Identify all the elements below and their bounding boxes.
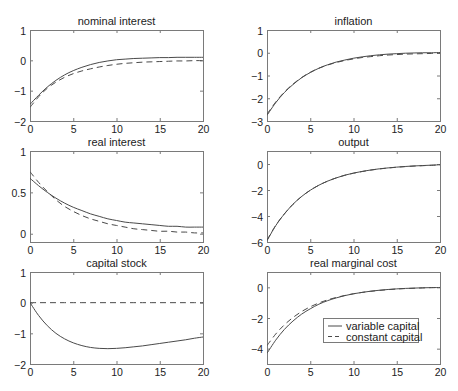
variable-capital-line (30, 303, 203, 349)
constant-capital-line (267, 165, 440, 240)
y-tick-label: −2 (251, 313, 263, 325)
x-tick-label: 0 (265, 123, 271, 135)
subplot-output: output05101520−6−4−20 (251, 136, 446, 256)
y-tick-label: −1 (251, 70, 263, 82)
x-tick-label: 20 (435, 123, 447, 135)
subplot-real-marginal-cost: real marginal cost05101520−4−20variable … (251, 257, 446, 378)
x-tick-label: 20 (198, 123, 210, 135)
y-tick-label: 0 (257, 159, 263, 171)
axes-frame (268, 31, 441, 122)
axes-frame (268, 152, 441, 243)
y-tick-label: 1 (20, 267, 26, 279)
chart-grid: nominal interest05101520−2−101inflation0… (0, 0, 458, 391)
x-tick-label: 0 (28, 366, 34, 378)
y-tick-label: −2 (14, 116, 26, 128)
x-tick-label: 10 (111, 366, 123, 378)
x-tick-label: 0 (265, 366, 271, 378)
x-tick-label: 10 (348, 366, 360, 378)
x-tick-label: 15 (154, 244, 166, 256)
y-tick-label: 1 (20, 25, 26, 37)
variable-capital-line (267, 53, 440, 116)
panel-title: nominal interest (78, 15, 156, 27)
subplot-capital-stock: capital stock05101520−2−101 (14, 257, 209, 378)
legend: variable capitalconstant capital (324, 319, 423, 343)
y-tick-label: 0 (257, 282, 263, 294)
figure: nominal interest05101520−2−101inflation0… (0, 0, 458, 391)
subplot-inflation: inflation05101520−3−2−101 (251, 15, 446, 135)
legend-label: constant capital (346, 331, 422, 343)
x-tick-label: 0 (28, 123, 34, 135)
x-tick-label: 20 (198, 366, 210, 378)
panel-title: real interest (88, 136, 145, 148)
variable-capital-line (267, 165, 440, 241)
x-tick-label: 5 (308, 366, 314, 378)
x-tick-label: 5 (308, 123, 314, 135)
x-tick-label: 20 (198, 244, 210, 256)
subplot-nominal-interest: nominal interest05101520−2−101 (14, 15, 209, 135)
y-tick-label: −1 (14, 328, 26, 340)
axes-frame (31, 31, 204, 122)
x-tick-label: 5 (71, 244, 77, 256)
x-tick-label: 0 (28, 244, 34, 256)
x-tick-label: 5 (71, 123, 77, 135)
axes-frame (31, 273, 204, 365)
y-tick-label: 1 (20, 146, 26, 158)
y-tick-label: 0 (20, 55, 26, 67)
y-tick-label: −2 (14, 359, 26, 371)
x-tick-label: 20 (435, 244, 447, 256)
y-tick-label: −2 (251, 93, 263, 105)
x-tick-label: 15 (391, 123, 403, 135)
constant-capital-line (267, 53, 440, 114)
panel-title: capital stock (86, 257, 147, 269)
variable-capital-line (30, 178, 203, 227)
y-tick-label: 0 (257, 47, 263, 59)
x-tick-label: 20 (435, 366, 447, 378)
constant-capital-line (30, 61, 203, 108)
y-tick-label: −6 (251, 237, 263, 249)
x-tick-label: 10 (111, 123, 123, 135)
y-tick-label: −4 (251, 211, 263, 223)
x-tick-label: 15 (391, 366, 403, 378)
x-tick-label: 10 (348, 244, 360, 256)
y-tick-label: 1 (257, 25, 263, 37)
x-tick-label: 15 (154, 366, 166, 378)
x-tick-label: 5 (71, 366, 77, 378)
x-tick-label: 15 (391, 244, 403, 256)
y-tick-label: −3 (251, 116, 263, 128)
y-tick-label: −2 (251, 185, 263, 197)
y-tick-label: 0 (20, 297, 26, 309)
y-tick-label: 0 (20, 228, 26, 240)
constant-capital-line (30, 172, 203, 233)
panel-title: output (338, 136, 369, 148)
panel-title: inflation (335, 15, 373, 27)
x-tick-label: 5 (308, 244, 314, 256)
x-tick-label: 10 (348, 123, 360, 135)
y-tick-label: 0.5 (11, 187, 26, 199)
subplot-real-interest: real interest0510152000.51 (11, 136, 209, 256)
x-tick-label: 0 (265, 244, 271, 256)
x-tick-label: 15 (154, 123, 166, 135)
y-tick-label: −1 (14, 85, 26, 97)
x-tick-label: 10 (111, 244, 123, 256)
axes-frame (31, 152, 204, 243)
panel-title: real marginal cost (310, 257, 397, 269)
y-tick-label: −4 (251, 343, 263, 355)
